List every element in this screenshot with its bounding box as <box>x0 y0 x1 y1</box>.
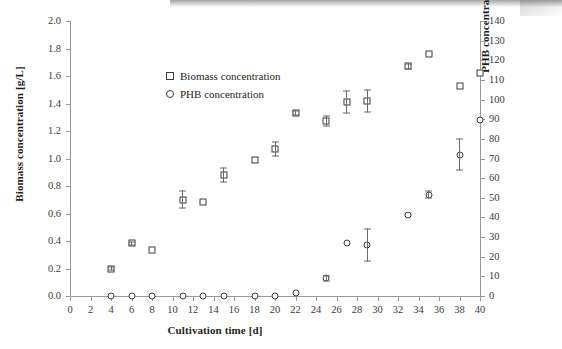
y-tick-label-right: 20 <box>489 251 523 262</box>
x-tick <box>70 297 71 301</box>
y-tick-right <box>481 237 485 238</box>
y-tick-label-right: 110 <box>489 74 523 85</box>
chart-legend: Biomass concentrationPHB concentration <box>163 67 281 103</box>
y-tick-right <box>481 80 485 81</box>
y-tick-label-left: 1.2 <box>27 125 61 136</box>
data-point <box>456 151 463 158</box>
x-tick <box>337 297 338 301</box>
y-tick-label-left: 1.0 <box>27 153 61 164</box>
x-tick <box>357 297 358 301</box>
data-point <box>200 198 207 205</box>
x-tick <box>296 297 297 301</box>
data-point <box>220 293 227 300</box>
data-point <box>272 145 279 152</box>
legend-label: PHB concentration <box>180 88 264 100</box>
error-bar <box>295 110 296 116</box>
y-tick-right <box>481 217 485 218</box>
error-bar <box>459 139 460 170</box>
data-point <box>292 290 299 297</box>
data-point <box>425 191 432 198</box>
legend-label: Biomass concentration <box>180 70 281 82</box>
marker-circle-icon <box>149 293 156 300</box>
y-tick-left <box>66 104 70 105</box>
y-tick-label-right: 60 <box>489 172 523 183</box>
y-tick-label-left: 2.0 <box>27 15 61 26</box>
legend-item: PHB concentration <box>163 85 281 103</box>
data-point <box>323 118 330 125</box>
y-tick-right <box>481 41 485 42</box>
chart-figure: Biomass concentration [g/L] PHB concentr… <box>0 0 562 349</box>
y-tick-right <box>481 198 485 199</box>
y-tick-right <box>481 139 485 140</box>
y-tick-label-right: 90 <box>489 113 523 124</box>
y-tick-label-right: 40 <box>489 211 523 222</box>
x-tick <box>460 297 461 301</box>
error-bar <box>182 191 183 209</box>
error-bar <box>275 141 276 156</box>
y-tick-left <box>66 214 70 215</box>
data-point <box>477 117 484 124</box>
x-tick <box>398 297 399 301</box>
marker-circle-icon <box>251 293 258 300</box>
y-tick-label-right: 50 <box>489 192 523 203</box>
data-point <box>343 99 350 106</box>
data-point <box>179 196 186 203</box>
error-bar <box>131 241 132 245</box>
y-tick-label-left: 1.6 <box>27 70 61 81</box>
data-point <box>405 63 412 70</box>
y-tick-label-left: 0.6 <box>27 208 61 219</box>
marker-circle-icon <box>166 90 174 98</box>
data-point <box>405 212 412 219</box>
y-tick-label-right: 70 <box>489 153 523 164</box>
error-bar <box>367 89 368 112</box>
x-tick <box>91 297 92 301</box>
marker-circle-icon <box>477 117 484 124</box>
marker-square-icon <box>477 70 484 77</box>
marker-circle-icon <box>292 290 299 297</box>
y-tick-right <box>481 159 485 160</box>
data-point <box>364 97 371 104</box>
y-tick-left <box>66 49 70 50</box>
plot-area: 0.00.20.40.60.81.01.21.41.61.82.0 010203… <box>70 21 481 296</box>
y-tick-label-right: 80 <box>489 133 523 144</box>
data-point <box>108 265 115 272</box>
y-tick-label-right: 0 <box>489 290 523 301</box>
marker-square-icon <box>149 246 156 253</box>
y-tick-right <box>481 178 485 179</box>
marker-square-icon <box>166 72 174 80</box>
y-tick-label-left: 0.4 <box>27 235 61 246</box>
y-tick-label-left: 0.2 <box>27 263 61 274</box>
marker-square-icon <box>456 82 463 89</box>
data-point <box>323 275 330 282</box>
data-point <box>364 241 371 248</box>
y-tick-label-left: 1.8 <box>27 43 61 54</box>
y-tick-right <box>481 257 485 258</box>
y-tick-left <box>66 186 70 187</box>
legend-marker <box>163 72 177 80</box>
data-point <box>456 82 463 89</box>
data-point <box>343 239 350 246</box>
data-point <box>477 70 484 77</box>
y-tick-label-right: 100 <box>489 94 523 105</box>
error-bar <box>367 228 368 261</box>
y-tick-label-right: 120 <box>489 54 523 65</box>
error-bar <box>408 64 409 70</box>
y-tick-label-left: 0.0 <box>27 290 61 301</box>
y-tick-label-right: 10 <box>489 270 523 281</box>
y-tick-label-right: 140 <box>489 15 523 26</box>
x-tick <box>234 297 235 301</box>
data-point <box>425 51 432 58</box>
y-tick-left <box>66 159 70 160</box>
marker-square-icon <box>251 156 258 163</box>
data-point <box>179 293 186 300</box>
x-tick-label: 40 <box>468 304 492 315</box>
x-tick <box>316 297 317 301</box>
x-tick <box>378 297 379 301</box>
data-point <box>108 293 115 300</box>
marker-circle-icon <box>220 293 227 300</box>
y-tick-left <box>66 76 70 77</box>
y-tick-right <box>481 100 485 101</box>
marker-circle-icon <box>343 239 350 246</box>
x-tick <box>419 297 420 301</box>
data-point <box>251 293 258 300</box>
